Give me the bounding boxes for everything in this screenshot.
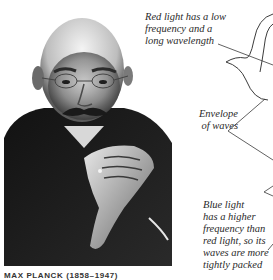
- annotation-red-line1: Red light has a low: [145, 11, 245, 23]
- annotation-blue-line1: Blue light: [203, 199, 273, 211]
- annotation-red-light: Red light has a low frequency and a long…: [145, 11, 245, 47]
- annotation-blue-line2: has a higher: [203, 211, 273, 223]
- annotation-red-line3: long wavelength: [145, 35, 245, 47]
- red-wave-inner: [260, 24, 273, 72]
- annotation-blue-line5: waves are more: [203, 247, 273, 259]
- envelope-leader-lower: [228, 131, 273, 160]
- annotation-red-line2: frequency and a: [145, 23, 245, 35]
- annotation-blue-line3: frequency than: [203, 223, 273, 235]
- blue-leader-chevron: [264, 186, 273, 196]
- photo-caption: MAX PLANCK (1858–1947): [4, 271, 118, 280]
- textbook-page: Red light has a low frequency and a long…: [0, 0, 273, 280]
- annotation-envelope: Envelope of waves: [183, 108, 238, 132]
- annotation-blue-line6: tightly packed: [203, 259, 273, 271]
- red-leader-line: [218, 44, 273, 65]
- annotation-envelope-line2: of waves: [183, 120, 238, 132]
- annotation-blue-light: Blue light has a higher frequency than r…: [203, 199, 273, 271]
- annotation-envelope-line1: Envelope: [183, 108, 238, 120]
- annotation-blue-line4: red light, so its: [203, 235, 273, 247]
